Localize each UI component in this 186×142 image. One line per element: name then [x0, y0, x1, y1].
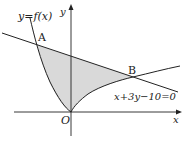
x-axis-label: x — [173, 114, 179, 125]
point-a-label: A — [37, 31, 47, 44]
origin-label: O — [61, 114, 70, 127]
y-axis-label: y — [59, 6, 66, 17]
y-axis-arrow-icon — [69, 4, 74, 10]
point-b-label: B — [128, 64, 136, 77]
curve-label: y=f(x) — [17, 10, 52, 23]
graph: y=f(x) y A B x+3y−10=0 O x — [0, 0, 186, 142]
line-label: x+3y−10=0 — [114, 91, 177, 102]
